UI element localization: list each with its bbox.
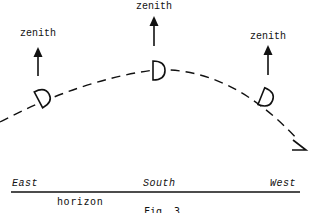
west-zenith-label: zenith (250, 32, 286, 42)
east-zenith-arrow-icon (34, 47, 43, 76)
west-sun-symbol-icon (258, 88, 276, 109)
east-sun-symbol-icon (34, 86, 53, 108)
east-zenith-label: zenith (20, 29, 56, 39)
south-zenith-label: zenith (136, 2, 172, 12)
direction-south-label: South (143, 179, 176, 189)
sun-path-diagram: zenith zenith zenith East South West hor… (0, 0, 316, 213)
figure-caption: Fig. 3 (144, 207, 180, 213)
west-zenith-arrow-icon (264, 45, 273, 75)
direction-west-label: West (270, 179, 296, 189)
south-zenith-arrow-icon (150, 16, 159, 46)
south-sun-symbol-icon (153, 61, 165, 80)
path-arrowhead-icon (292, 140, 306, 150)
horizon-label: horizon (57, 197, 103, 207)
direction-east-label: East (12, 179, 38, 189)
